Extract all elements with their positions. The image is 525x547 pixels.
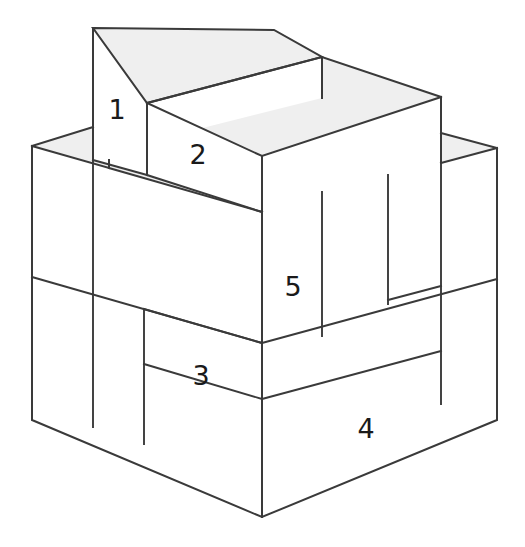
block-label-4: 4 <box>357 413 374 444</box>
block-label-2: 2 <box>189 139 206 170</box>
block-label-1: 1 <box>108 94 125 125</box>
isometric-block-diagram: 1 2 3 4 5 <box>0 0 525 547</box>
block-label-5: 5 <box>284 271 301 302</box>
block-label-3: 3 <box>192 360 209 391</box>
figure-root: 1 2 3 4 5 <box>0 0 525 547</box>
